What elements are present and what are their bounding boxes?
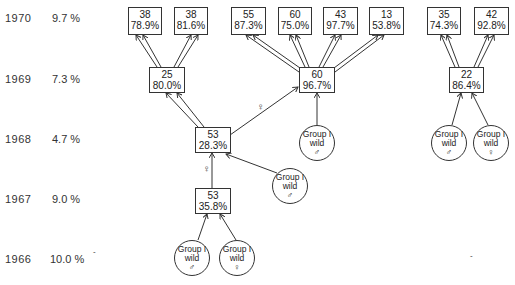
node-count: 60 xyxy=(300,69,334,80)
year-rate-1969: 7.3 % xyxy=(52,73,80,85)
node-percent: 81.6% xyxy=(175,20,207,31)
year-rate-1970: 9.7 % xyxy=(52,12,80,24)
male-symbol-icon: ♂ xyxy=(175,263,209,272)
node-percent: 35.8% xyxy=(196,201,230,212)
wild-male-node-1968: Group Iwild♂ xyxy=(299,125,335,161)
year-label-1968: 1968 xyxy=(5,133,31,145)
node-count: 55 xyxy=(232,9,265,20)
tick-mark: - xyxy=(93,247,96,256)
node-count: 38 xyxy=(129,9,161,20)
node-count: 43 xyxy=(324,9,357,20)
male-symbol-icon: ♂ xyxy=(432,148,466,157)
female-symbol-icon: ♀ xyxy=(474,148,508,157)
node-percent: 92.8% xyxy=(475,20,508,31)
node-1970-3: 5587.3% xyxy=(231,7,266,35)
node-1969-1: 2580.0% xyxy=(149,67,185,93)
node-1969-3: 2286.4% xyxy=(449,67,484,93)
node-count: 13 xyxy=(370,9,403,20)
node-1970-5: 4397.7% xyxy=(323,7,358,35)
wild-female-node-1966: Group Iwild♀ xyxy=(219,240,255,276)
node-count: 42 xyxy=(475,9,508,20)
year-rate-1966: 10.0 % xyxy=(50,253,84,265)
node-count: 22 xyxy=(450,69,483,80)
node-percent: 78.9% xyxy=(129,20,161,31)
node-percent: 86.4% xyxy=(450,80,483,91)
node-percent: 96.7% xyxy=(300,80,334,91)
male-symbol-icon: ♂ xyxy=(300,148,334,157)
year-rate-1968: 4.7 % xyxy=(52,133,80,145)
node-percent: 74.3% xyxy=(428,20,460,31)
year-rate-1967: 9.0 % xyxy=(52,193,80,205)
node-percent: 80.0% xyxy=(150,80,184,91)
wild-male-node-1966: Group Iwild♂ xyxy=(174,240,210,276)
node-1969-2: 6096.7% xyxy=(299,67,335,93)
year-label-1970: 1970 xyxy=(5,12,31,24)
node-1970-8: 4292.8% xyxy=(474,7,509,35)
svg-text:-: - xyxy=(470,251,473,260)
node-1970-2: 3881.6% xyxy=(174,7,208,35)
node-percent: 87.3% xyxy=(232,20,265,31)
female-edge-label-1967: ♀ xyxy=(203,163,211,174)
node-count: 25 xyxy=(150,69,184,80)
wild-male-node-1968-right: Group Iwild♂ xyxy=(431,125,467,161)
node-percent: 97.7% xyxy=(324,20,357,31)
year-label-1966: 1966 xyxy=(5,253,31,265)
female-edge-label-1968: ♀ xyxy=(257,101,265,112)
node-1970-1: 3878.9% xyxy=(128,7,162,35)
node-count: 38 xyxy=(175,9,207,20)
node-percent: 28.3% xyxy=(196,140,230,151)
node-count: 53 xyxy=(196,190,230,201)
node-1970-4: 6075.0% xyxy=(278,7,312,35)
node-1967-1: 5335.8% xyxy=(195,188,231,214)
node-percent: 53.8% xyxy=(370,20,403,31)
node-count: 53 xyxy=(196,129,230,140)
male-symbol-icon: ♂ xyxy=(273,191,307,200)
year-label-1969: 1969 xyxy=(5,73,31,85)
node-count: 60 xyxy=(279,9,311,20)
wild-female-node-1968-right: Group Iwild♀ xyxy=(473,125,509,161)
wild-male-node-1967: Group Iwild♂ xyxy=(272,168,308,204)
node-1970-7: 3574.3% xyxy=(427,7,461,35)
node-count: 35 xyxy=(428,9,460,20)
year-label-1967: 1967 xyxy=(5,193,31,205)
node-1970-6: 1353.8% xyxy=(369,7,404,35)
node-1968-1: 5328.3% xyxy=(195,127,231,153)
female-symbol-icon: ♀ xyxy=(220,263,254,272)
node-percent: 75.0% xyxy=(279,20,311,31)
